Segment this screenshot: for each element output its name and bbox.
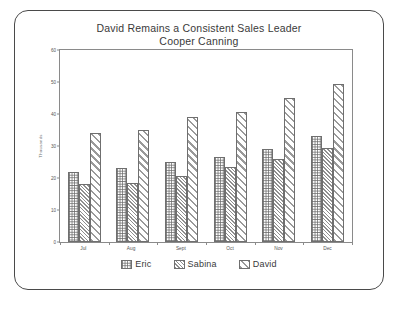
- bar-sabina-oct[interactable]: [225, 167, 236, 242]
- y-tick-label: 40: [51, 112, 56, 117]
- bar-eric-oct[interactable]: [214, 157, 225, 242]
- y-tick-label: 50: [51, 80, 56, 85]
- bar-david-sept[interactable]: [187, 117, 198, 242]
- bar-eric-sept[interactable]: [165, 162, 176, 242]
- bar-david-nov[interactable]: [284, 98, 295, 242]
- bar-group: [262, 50, 295, 242]
- y-tick-label: 30: [51, 144, 56, 149]
- bar-sabina-aug[interactable]: [127, 183, 138, 242]
- bar-sabina-dec[interactable]: [322, 148, 333, 242]
- x-tick-mark: [255, 242, 256, 245]
- legend-item-eric[interactable]: Eric: [121, 259, 151, 269]
- legend-label-eric: Eric: [135, 259, 151, 269]
- legend-swatch-sabina-icon: [174, 260, 185, 269]
- x-label-dec: Dec: [323, 246, 332, 251]
- bar-sabina-nov[interactable]: [273, 159, 284, 242]
- y-tick-label: 20: [51, 176, 56, 181]
- chart-title: David Remains a Consistent Sales Leader …: [15, 22, 383, 48]
- legend-item-david[interactable]: David: [239, 259, 277, 269]
- slide-frame: David Remains a Consistent Sales Leader …: [14, 10, 384, 290]
- legend-swatch-eric-icon: [121, 260, 132, 269]
- legend-swatch-david-icon: [239, 260, 250, 269]
- bar-david-aug[interactable]: [138, 130, 149, 242]
- x-axis-tick-marks: [60, 242, 352, 245]
- y-axis-title: Thousands: [38, 134, 43, 157]
- bar-sabina-sept[interactable]: [176, 176, 187, 242]
- bar-david-jul[interactable]: [90, 133, 101, 242]
- x-label-sept: Sept: [176, 246, 186, 251]
- y-tick-label: 0: [53, 240, 56, 245]
- x-tick-mark: [60, 242, 61, 245]
- y-tick-label: 60: [51, 48, 56, 53]
- bars-layer: [60, 50, 352, 242]
- bar-eric-jul[interactable]: [68, 172, 79, 242]
- bar-group: [116, 50, 149, 242]
- bar-david-oct[interactable]: [236, 112, 247, 242]
- y-tick-label: 10: [51, 208, 56, 213]
- bar-eric-dec[interactable]: [311, 136, 322, 242]
- chart-plot-wrapper: Thousands 0102030405060 JulAugSeptOctNov…: [59, 49, 353, 243]
- x-tick-mark: [109, 242, 110, 245]
- x-tick-mark: [303, 242, 304, 245]
- legend-label-david: David: [253, 259, 277, 269]
- x-tick-mark: [206, 242, 207, 245]
- bar-eric-nov[interactable]: [262, 149, 273, 242]
- chart-subtitle-line-2: Cooper Canning: [15, 35, 383, 48]
- x-tick-mark: [157, 242, 158, 245]
- bar-sabina-jul[interactable]: [79, 184, 90, 242]
- x-label-jul: Jul: [80, 246, 86, 251]
- x-axis-labels: JulAugSeptOctNovDec: [60, 246, 352, 251]
- bar-group: [165, 50, 198, 242]
- bar-eric-aug[interactable]: [116, 168, 127, 242]
- x-label-aug: Aug: [127, 246, 136, 251]
- bar-group: [214, 50, 247, 242]
- bar-group: [68, 50, 101, 242]
- x-label-oct: Oct: [226, 246, 233, 251]
- chart-title-line-1: David Remains a Consistent Sales Leader: [15, 22, 383, 35]
- legend-label-sabina: Sabina: [188, 259, 217, 269]
- plot-area: 0102030405060 JulAugSeptOctNovDec: [59, 49, 353, 243]
- bar-group: [311, 50, 344, 242]
- legend-item-sabina[interactable]: Sabina: [174, 259, 217, 269]
- x-label-nov: Nov: [274, 246, 283, 251]
- chart-legend: EricSabinaDavid: [15, 259, 383, 269]
- bar-david-dec[interactable]: [333, 84, 344, 242]
- x-tick-mark: [352, 242, 353, 245]
